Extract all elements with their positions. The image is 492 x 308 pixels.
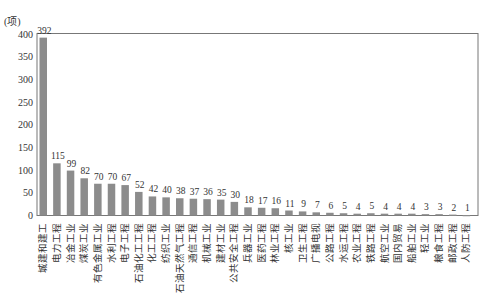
category-label: 水利工程 <box>106 223 117 263</box>
bar <box>203 199 211 215</box>
category-label: 水运工程 <box>338 223 349 263</box>
bar <box>367 213 375 215</box>
category-label: 粮食工程 <box>433 223 444 263</box>
category-label: 化工工程 <box>146 223 157 263</box>
bar <box>53 163 61 215</box>
category-label: 核工业 <box>283 223 294 253</box>
bar <box>108 184 116 216</box>
value-label: 5 <box>342 201 347 211</box>
bar-chart: (项) 050100150200250300350400 39211599827… <box>0 0 492 308</box>
bar <box>313 212 321 215</box>
value-label: 52 <box>135 180 145 190</box>
value-labels: 3921159982707067524240383736353018171611… <box>37 26 470 213</box>
category-label: 纺织工业 <box>160 223 171 263</box>
bar <box>94 184 102 216</box>
bar <box>422 214 430 215</box>
y-tick-label: 400 <box>18 29 33 40</box>
category-label: 船舶工业 <box>406 223 417 263</box>
bars <box>40 38 471 217</box>
value-label: 115 <box>51 151 65 161</box>
value-label: 16 <box>272 196 282 206</box>
category-label: 公共安全工程 <box>228 223 239 283</box>
category-labels: 城建和建工电力工程冶金工业煤炭工业有色金属工业水利工程电子工程石油化工工程化工工… <box>37 223 471 293</box>
bar <box>40 38 48 216</box>
value-label: 5 <box>369 201 374 211</box>
category-label: 建材工业 <box>215 223 226 263</box>
bar <box>299 211 307 215</box>
value-label: 4 <box>356 202 361 212</box>
value-label: 6 <box>329 201 334 211</box>
bar <box>463 215 471 216</box>
value-label: 37 <box>190 187 200 197</box>
category-label: 兵器工业 <box>242 223 253 263</box>
bar <box>149 196 157 215</box>
bar <box>135 192 143 216</box>
y-tick-label: 250 <box>18 97 33 108</box>
value-label: 9 <box>301 199 306 209</box>
category-label: 国内贸易 <box>392 223 403 263</box>
value-label: 30 <box>231 190 241 200</box>
value-label: 82 <box>80 166 90 176</box>
value-label: 3 <box>424 202 429 212</box>
category-label: 石油天然气工程 <box>174 223 185 293</box>
category-label: 城建和建工 <box>37 223 48 273</box>
y-axis-unit-label: (项) <box>4 16 21 28</box>
value-label: 392 <box>37 26 52 36</box>
y-tick-label: 200 <box>18 119 33 130</box>
y-axis-ticks: 050100150200250300350400 <box>18 29 33 222</box>
bar <box>435 214 443 215</box>
value-label: 4 <box>383 202 388 212</box>
value-label: 42 <box>149 184 159 194</box>
value-label: 4 <box>397 202 402 212</box>
value-label: 11 <box>285 199 294 209</box>
bar <box>394 214 402 216</box>
category-label: 煤炭工业 <box>78 223 89 263</box>
category-label: 机械工业 <box>201 223 212 263</box>
value-label: 36 <box>203 187 213 197</box>
bar <box>80 178 88 215</box>
bar <box>353 214 361 216</box>
value-label: 1 <box>465 203 470 213</box>
category-label: 石油化工工程 <box>133 223 144 283</box>
value-label: 38 <box>176 186 186 196</box>
y-tick-label: 150 <box>18 142 33 153</box>
value-label: 4 <box>410 202 415 212</box>
bar <box>231 202 239 216</box>
value-label: 2 <box>451 203 456 213</box>
value-label: 18 <box>244 195 254 205</box>
value-label: 67 <box>121 173 131 183</box>
bar <box>408 214 416 216</box>
value-label: 70 <box>94 172 104 182</box>
category-label: 有色金属工业 <box>92 223 103 283</box>
category-label: 邮政工程 <box>447 223 458 263</box>
category-label: 林业工程 <box>269 223 280 263</box>
y-tick-label: 50 <box>23 187 33 198</box>
value-label: 7 <box>315 200 320 210</box>
bar <box>121 185 128 215</box>
bar <box>190 199 198 216</box>
bar <box>326 213 334 216</box>
category-label: 广播电视 <box>310 223 321 263</box>
value-label: 3 <box>438 202 443 212</box>
category-label: 电子工程 <box>119 223 130 263</box>
category-label: 铁路工程 <box>365 223 376 263</box>
bar <box>67 171 75 216</box>
category-label: 航空工业 <box>379 223 390 263</box>
bar <box>285 211 293 216</box>
category-label: 人防工程 <box>460 223 471 263</box>
category-label: 卫生工程 <box>297 223 308 263</box>
category-label: 医药工程 <box>257 223 267 263</box>
bar <box>217 200 225 216</box>
y-tick-label: 0 <box>28 210 33 221</box>
y-tick-label: 300 <box>18 74 33 85</box>
y-tick-label: 100 <box>18 165 33 176</box>
y-tick-label: 350 <box>18 51 33 62</box>
value-label: 70 <box>108 172 118 182</box>
value-label: 35 <box>217 188 227 198</box>
bar <box>272 208 280 215</box>
bar <box>162 197 170 215</box>
bar <box>258 208 266 216</box>
bar <box>381 214 389 216</box>
bar <box>449 215 457 216</box>
category-label: 电力工程 <box>51 223 62 263</box>
